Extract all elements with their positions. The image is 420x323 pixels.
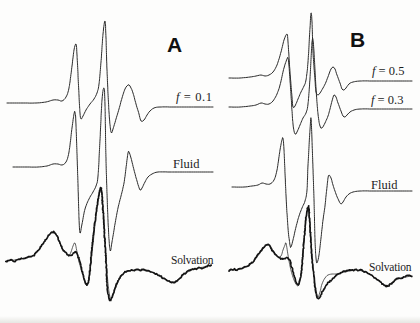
panel-b-label: B xyxy=(350,29,365,50)
curve-label-a-fluid: Fluid xyxy=(173,158,199,171)
curve-label-b-f05: f = 0.5 xyxy=(372,65,404,78)
scan-edge-shadow xyxy=(0,316,420,323)
curve-a_solvation_fit xyxy=(6,189,211,299)
f-value: = 0.1 xyxy=(180,90,213,104)
curve-label-b-solvation: Solvation xyxy=(369,262,411,274)
curve-b_solvation_fit xyxy=(229,208,412,297)
epr-spectra-figure: A B f = 0.1 Fluid Solvation f = 0.5 f = … xyxy=(0,0,420,323)
curve-b_f03 xyxy=(229,38,412,134)
panel-a-label: A xyxy=(167,34,182,55)
curve-label-b-f03: f = 0.3 xyxy=(371,94,403,107)
curve-label-b-fluid: Fluid xyxy=(371,179,397,192)
curve-label-a-solvation: Solvation xyxy=(171,255,213,267)
curve-b_solvation xyxy=(229,206,412,299)
curve-a_solvation xyxy=(6,187,211,300)
f-value: = 0.3 xyxy=(374,93,403,107)
f-value: = 0.5 xyxy=(375,64,404,78)
curve-label-a-f01: f = 0.1 xyxy=(176,91,213,104)
